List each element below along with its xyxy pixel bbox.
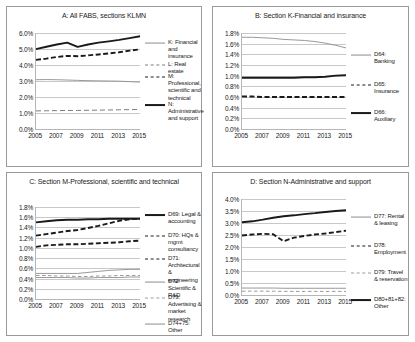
d-legend-swatch bbox=[351, 269, 371, 277]
d-y-tick-label: 1.0% bbox=[225, 268, 239, 275]
c-legend-item: D70: HQs & mgmt consultancy bbox=[145, 232, 202, 254]
a-legend-item: K: Financial and insurance bbox=[145, 39, 201, 61]
a-series-line bbox=[36, 80, 140, 83]
a-y-tick-label: 6.0% bbox=[19, 30, 33, 37]
d-x-tick-label: 2013 bbox=[317, 298, 331, 305]
d-legend-item: D78: Employment bbox=[351, 242, 408, 256]
a-series-line bbox=[36, 109, 140, 110]
a-series-layer bbox=[36, 33, 140, 129]
c-legend-swatch bbox=[145, 320, 165, 328]
d-legend-swatch bbox=[351, 296, 371, 304]
a-legend-swatch bbox=[145, 73, 165, 81]
a-legend-swatch bbox=[145, 39, 165, 47]
a-plot-area bbox=[35, 33, 140, 130]
b-y-tick-label: 1.0% bbox=[225, 72, 239, 79]
b-legend-swatch bbox=[351, 51, 371, 59]
figure-four-panel-line-charts: A: All FABS, sections KLMN 0.0%1.0%2.0%3… bbox=[0, 0, 415, 342]
d-legend-swatch bbox=[351, 242, 371, 250]
a-legend-label: N: Administrative and support bbox=[165, 101, 204, 123]
b-legend-label: D66: Auxiliary bbox=[371, 109, 408, 123]
a-x-tick-label: 2015 bbox=[132, 132, 146, 139]
a-y-tick-label: 4.0% bbox=[19, 62, 33, 69]
b-y-tick-label: 0.8% bbox=[225, 83, 239, 90]
d-legend-label: D79: Travel & reservation bbox=[371, 269, 408, 283]
c-series-line bbox=[36, 277, 140, 278]
b-y-tick-label: 1.6% bbox=[225, 40, 239, 47]
c-x-tick-label: 2009 bbox=[70, 302, 84, 309]
a-x-tick-label: 2011 bbox=[91, 132, 104, 139]
a-series-line bbox=[36, 36, 140, 49]
c-y-tick-label: 1.4% bbox=[19, 224, 33, 231]
d-y-tick-label: 2.0% bbox=[225, 244, 239, 251]
a-y-tick-label: 3.0% bbox=[19, 78, 33, 85]
a-x-tick-label: 2005 bbox=[28, 132, 42, 139]
c-legend-swatch bbox=[145, 278, 165, 286]
c-y-tick-label: 0.6% bbox=[19, 265, 33, 272]
d-x-tick-label: 2011 bbox=[297, 298, 310, 305]
panel-d-legend: D77: Rental & leasingD78: EmploymentD79:… bbox=[351, 213, 408, 329]
d-plot-area bbox=[241, 199, 346, 296]
a-legend-item: M: Professional, scientific and technica… bbox=[145, 73, 201, 102]
d-y-tick-label: 3.5% bbox=[225, 208, 239, 215]
b-y-tick-label: 0.4% bbox=[225, 104, 239, 111]
d-y-tick-label: 0.5% bbox=[225, 280, 239, 287]
panel-b: B: Section K-Financial and insurance 0.0… bbox=[212, 6, 409, 167]
d-x-tick-label: 2007 bbox=[255, 298, 269, 305]
b-legend-item: D64: Banking bbox=[351, 51, 408, 65]
d-x-tick-label: 2009 bbox=[276, 298, 290, 305]
c-y-tick-label: 1.0% bbox=[19, 244, 33, 251]
c-y-tick-label: 0.8% bbox=[19, 255, 33, 262]
b-x-tick-label: 2011 bbox=[297, 132, 310, 139]
b-y-tick-label: 0.6% bbox=[225, 94, 239, 101]
a-x-tick-label: 2007 bbox=[49, 132, 63, 139]
c-legend-item: D69: Legal & accounting bbox=[145, 211, 202, 225]
c-y-tick-label: 0.4% bbox=[19, 275, 33, 282]
b-x-tick-label: 2015 bbox=[338, 132, 352, 139]
c-legend-swatch bbox=[145, 232, 165, 240]
a-x-tick-label: 2013 bbox=[111, 132, 125, 139]
d-legend-label: D77: Rental & leasing bbox=[371, 213, 408, 227]
b-x-tick-label: 2007 bbox=[255, 132, 269, 139]
a-legend-label: K: Financial and insurance bbox=[165, 39, 201, 61]
b-y-tick-label: 1.8% bbox=[225, 30, 239, 37]
a-legend-swatch bbox=[145, 101, 165, 109]
d-x-tick-label: 2005 bbox=[234, 298, 248, 305]
d-series-layer bbox=[242, 199, 346, 295]
panel-d: D: Section N-Administrative and support … bbox=[212, 172, 409, 336]
d-series-line bbox=[242, 231, 346, 242]
b-y-tick-label: 0.2% bbox=[225, 115, 239, 122]
c-legend-item: D74+75: Other bbox=[145, 320, 202, 334]
d-y-tick-label: 4.0% bbox=[225, 196, 239, 203]
c-series-layer bbox=[36, 207, 140, 299]
c-legend-swatch bbox=[145, 255, 165, 263]
c-y-tick-label: 1.2% bbox=[19, 234, 33, 241]
b-series-layer bbox=[242, 33, 346, 129]
b-legend-item: D65: Insurance bbox=[351, 81, 408, 95]
d-legend-item: D80+81+82: Other bbox=[351, 296, 408, 310]
panel-a-legend: K: Financial and insuranceL: Real estate… bbox=[145, 39, 201, 155]
c-legend-label: D69: Legal & accounting bbox=[165, 211, 202, 225]
b-y-tick-label: 1.4% bbox=[225, 51, 239, 58]
panel-c: C: Section M-Professional, scientific an… bbox=[6, 172, 202, 336]
b-series-line bbox=[242, 96, 346, 97]
c-legend-label: D73: Advertising & market research bbox=[165, 294, 202, 323]
b-legend-swatch bbox=[351, 81, 371, 89]
b-plot-area bbox=[241, 33, 346, 130]
b-y-axis-labels: 0.0%0.2%0.4%0.6%0.8%1.0%1.2%1.4%1.6%1.8% bbox=[216, 7, 240, 166]
b-x-tick-label: 2013 bbox=[317, 132, 331, 139]
d-legend-swatch bbox=[351, 213, 371, 221]
c-plot-area bbox=[35, 207, 140, 300]
d-legend-label: D78: Employment bbox=[371, 242, 408, 256]
panel-c-legend: D69: Legal & accountingD70: HQs & mgmt c… bbox=[145, 211, 202, 323]
d-x-tick-label: 2015 bbox=[338, 298, 352, 305]
b-series-line bbox=[242, 75, 346, 78]
b-legend-swatch bbox=[351, 109, 371, 117]
c-legend-label: D70: HQs & mgmt consultancy bbox=[165, 232, 202, 254]
c-legend-swatch bbox=[145, 294, 165, 302]
c-series-line bbox=[36, 275, 140, 276]
d-legend-label: D80+81+82: Other bbox=[371, 296, 408, 310]
a-y-tick-label: 1.0% bbox=[19, 110, 33, 117]
b-x-tick-label: 2009 bbox=[276, 132, 290, 139]
c-series-line bbox=[36, 219, 140, 223]
d-legend-item: D79: Travel & reservation bbox=[351, 269, 408, 283]
